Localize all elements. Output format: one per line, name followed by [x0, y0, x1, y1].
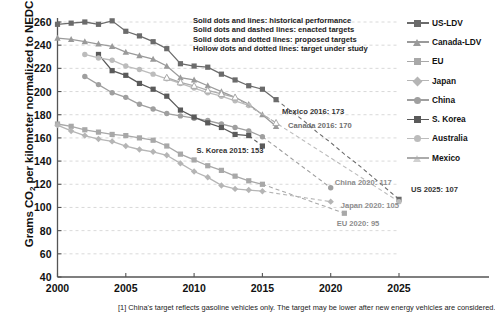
key-line-proposed: Solid dots and dotted lines: proposed ta… — [193, 35, 368, 44]
data-point-target — [273, 119, 279, 125]
data-point — [95, 136, 101, 142]
data-point — [151, 87, 156, 92]
legend-marker-icon — [407, 152, 429, 164]
data-point — [137, 33, 142, 38]
chart-legend: US-LDVCanada-LDVEUJapanChinaS. KoreaAust… — [407, 13, 493, 167]
key-line-historical: Solid dots and lines: historical perform… — [193, 16, 368, 25]
legend-item-us-ldv[interactable]: US-LDV — [407, 13, 493, 32]
data-point — [123, 73, 128, 78]
data-point — [164, 143, 169, 148]
data-point-target — [328, 198, 334, 204]
data-point — [123, 63, 128, 68]
data-point — [110, 68, 115, 73]
legend-marker-icon — [407, 94, 429, 106]
footnote: [1] China's target reflects gasoline veh… — [118, 303, 495, 312]
data-point — [219, 125, 224, 130]
data-point — [246, 178, 251, 183]
data-point — [191, 168, 197, 174]
legend-item-label: US-LDV — [432, 18, 463, 28]
data-point — [109, 138, 115, 144]
data-point — [123, 143, 129, 149]
data-point — [178, 107, 183, 112]
data-point — [137, 81, 142, 86]
data-point — [192, 114, 197, 119]
data-point — [205, 174, 211, 180]
data-point — [259, 188, 265, 194]
key-line-under-study: Hollow dots and dotted lines: target und… — [193, 44, 368, 53]
legend-item-s-korea[interactable]: S. Korea — [407, 109, 493, 128]
data-point — [109, 90, 114, 95]
data-point — [232, 174, 237, 179]
data-point — [246, 133, 251, 138]
data-point-target — [342, 211, 347, 216]
data-point — [205, 120, 210, 125]
legend-item-canada-ldv[interactable]: Canada-LDV — [407, 32, 493, 51]
data-point — [164, 111, 169, 116]
key-line-enacted: Solid dots and dashed lines: enacted tar… — [193, 25, 368, 34]
annotation-label: EU 2020: 95 — [337, 219, 380, 228]
data-point — [164, 94, 169, 99]
data-point — [246, 128, 251, 133]
data-point — [82, 19, 87, 24]
data-point — [232, 125, 237, 130]
data-point — [96, 130, 101, 135]
data-point — [232, 132, 237, 137]
legend-marker-icon — [407, 75, 429, 87]
series-eu — [55, 121, 347, 215]
legend-marker-icon — [407, 55, 429, 67]
data-point — [110, 132, 115, 137]
data-point — [150, 106, 155, 111]
data-point — [82, 127, 87, 132]
legend-item-label: China — [432, 95, 455, 105]
data-point — [232, 77, 237, 82]
data-point — [96, 82, 101, 87]
data-point — [123, 95, 128, 100]
annotation-label: Japan 2020: 105 — [341, 201, 399, 210]
data-point — [164, 152, 170, 158]
data-point — [273, 97, 278, 102]
data-point — [151, 39, 156, 44]
data-point — [205, 163, 210, 168]
legend-marker-icon — [407, 17, 429, 29]
legend-item-eu[interactable]: EU — [407, 52, 493, 71]
legend-item-label: S. Korea — [432, 114, 466, 124]
legend-item-label: Australia — [432, 133, 468, 143]
legend-item-australia[interactable]: Australia — [407, 129, 493, 148]
data-point — [178, 152, 183, 157]
data-point — [55, 22, 60, 27]
data-point — [219, 72, 224, 77]
annotation-label: S. Korea 2015: 153 — [196, 146, 263, 155]
data-point — [192, 63, 197, 68]
data-point — [110, 18, 115, 23]
data-point — [150, 71, 155, 76]
legend-marker-icon — [407, 132, 429, 144]
legend-item-japan[interactable]: Japan — [407, 71, 493, 90]
data-point — [164, 63, 170, 69]
legend-item-label: Japan — [432, 76, 456, 86]
annotation-label: Mexico 2016: 173 — [282, 107, 344, 116]
series-line-target — [235, 97, 276, 123]
data-point — [150, 149, 156, 155]
series-line-historical — [58, 125, 263, 191]
legend-item-mexico[interactable]: Mexico — [407, 148, 493, 167]
data-point — [219, 168, 224, 173]
legend-marker-icon — [407, 113, 429, 125]
data-point — [232, 186, 238, 192]
data-point — [109, 58, 114, 63]
data-point — [137, 102, 142, 107]
data-point — [260, 134, 265, 139]
series-line-historical — [167, 78, 235, 98]
data-point — [178, 61, 183, 66]
legend-item-china[interactable]: China — [407, 90, 493, 109]
data-point — [246, 187, 252, 193]
data-point — [136, 146, 142, 152]
legend-marker-icon — [407, 36, 429, 48]
data-point — [164, 74, 170, 80]
data-point — [246, 83, 251, 88]
data-point — [82, 74, 87, 79]
annotation-label: China 2020: 117 — [335, 178, 392, 187]
data-point — [137, 67, 142, 72]
data-point — [218, 182, 224, 188]
legend-item-label: EU — [432, 56, 444, 66]
